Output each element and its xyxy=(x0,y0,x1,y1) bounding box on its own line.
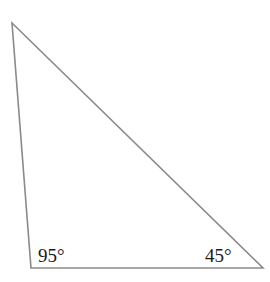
triangle-diagram: 95° 45° xyxy=(0,0,270,282)
triangle-shape xyxy=(12,23,263,268)
angle-label-bottom-left: 95° xyxy=(38,245,65,266)
triangle-svg: 95° 45° xyxy=(0,0,270,282)
angle-label-bottom-right: 45° xyxy=(205,245,232,266)
